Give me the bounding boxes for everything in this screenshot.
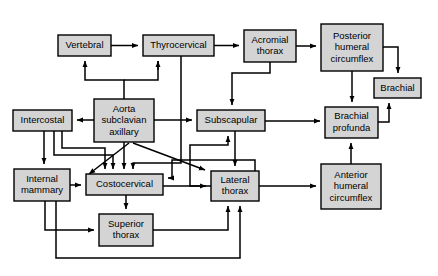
node-vertebral[interactable]: Vertebral: [58, 35, 111, 56]
node-thyrocervical[interactable]: Thyrocervical: [143, 35, 214, 56]
node-label-posthumcirc: Posterior: [333, 30, 371, 41]
arterial-collateral-diagram: VertebralThyrocervicalAcromialthoraxPost…: [0, 0, 438, 276]
edge-acromial-to-subscapular: [232, 62, 270, 105]
edge-brachprof-to-brachial: [378, 103, 389, 122]
node-label-thyrocervical: Thyrocervical: [150, 39, 207, 50]
node-label-posthumcirc: humeral: [335, 41, 369, 52]
edge-aorta-to-vertebral: [85, 61, 124, 99]
node-label-brachial: Brachial: [380, 82, 414, 93]
diagram-canvas: VertebralThyrocervicalAcromialthoraxPost…: [0, 0, 438, 276]
node-label-superiorthorax: Superior: [108, 218, 144, 229]
node-anthumcirc[interactable]: Anteriorhumeralcircumflex: [321, 164, 381, 209]
edge-layer: [44, 46, 398, 259]
node-label-subscapular: Subscapular: [205, 114, 258, 125]
node-label-brachprof: profunda: [333, 122, 371, 133]
node-label-intmammary: mammary: [21, 184, 63, 195]
node-label-lateralthorax: Lateral: [220, 174, 249, 185]
node-superiorthorax[interactable]: Superiorthorax: [99, 214, 153, 246]
node-label-vertebral: Vertebral: [65, 39, 103, 50]
node-label-aorta: Aorta: [113, 103, 136, 114]
node-label-acromial: thorax: [257, 45, 284, 56]
edge-superiorthorax-to-lateralthorax: [153, 206, 228, 230]
node-label-acromial: Acromial: [252, 34, 289, 45]
node-label-intmammary: Internal: [26, 173, 58, 184]
node-lateralthorax[interactable]: Lateralthorax: [211, 171, 259, 201]
node-label-superiorthorax: thorax: [113, 229, 140, 240]
node-posthumcirc[interactable]: Posteriorhumeralcircumflex: [321, 24, 383, 71]
node-label-anthumcirc: humeral: [334, 180, 368, 191]
edge-aorta-to-thyrocervical: [124, 61, 158, 80]
node-layer: VertebralThyrocervicalAcromialthoraxPost…: [13, 24, 421, 246]
node-label-intercostal: Intercostal: [21, 114, 65, 125]
node-brachprof[interactable]: Brachialprofunda: [325, 107, 378, 138]
node-acromial[interactable]: Acromialthorax: [244, 30, 296, 62]
node-label-anthumcirc: Anterior: [334, 169, 367, 180]
node-label-lateralthorax: thorax: [222, 185, 249, 196]
node-label-costocervical: Costocervical: [96, 178, 153, 189]
node-label-anthumcirc: circumflex: [330, 192, 373, 203]
node-subscapular[interactable]: Subscapular: [197, 110, 265, 131]
node-label-aorta: axillary: [109, 126, 139, 137]
node-label-brachprof: Brachial: [334, 110, 368, 121]
node-label-aorta: subclavian: [102, 114, 147, 125]
node-label-posthumcirc: circumflex: [331, 53, 374, 64]
node-aorta[interactable]: Aortasubclavianaxillary: [94, 99, 154, 142]
node-intercostal[interactable]: Intercostal: [13, 110, 72, 131]
edge-posthumcirc-to-brachial: [383, 47, 398, 73]
node-intmammary[interactable]: Internalmammary: [14, 169, 70, 201]
edge-intmammary-to-superiorthorax: [45, 201, 94, 230]
node-costocervical[interactable]: Costocervical: [86, 174, 163, 195]
edge-aorta-to-lateralthorax: [133, 143, 205, 170]
node-brachial[interactable]: Brachial: [374, 78, 421, 98]
